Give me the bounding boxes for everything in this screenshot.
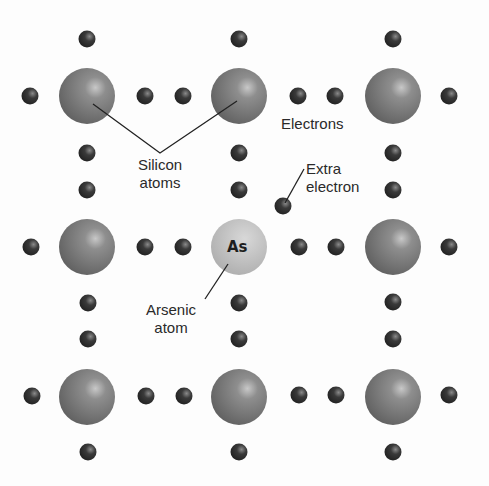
- electron: [231, 331, 248, 348]
- electron: [385, 182, 402, 199]
- extra-electron-label: Extra electron: [306, 160, 359, 196]
- electron: [231, 145, 248, 162]
- silicon-atom: [211, 68, 267, 124]
- electron: [231, 444, 248, 461]
- electron: [385, 331, 402, 348]
- electrons-label: Electrons: [281, 115, 344, 133]
- electron: [441, 88, 458, 105]
- label-line: Silicon: [128, 156, 192, 174]
- silicon-atom: [59, 68, 115, 124]
- electron: [24, 388, 41, 405]
- arsenic-atom-label: Arsenic atom: [137, 301, 205, 337]
- electron: [80, 444, 97, 461]
- electron: [385, 444, 402, 461]
- extra-electron-leader-line: [285, 169, 304, 203]
- electron: [80, 295, 97, 312]
- electron: [79, 31, 96, 48]
- silicon-atom: [365, 68, 421, 124]
- electron: [175, 88, 192, 105]
- silicon-atom: [365, 369, 421, 425]
- label-line: atom: [137, 319, 205, 337]
- extra-electron: [275, 198, 292, 215]
- electron: [23, 239, 40, 256]
- electron: [79, 145, 96, 162]
- silicon-atoms-label: Silicon atoms: [128, 156, 192, 192]
- silicon-atom: [59, 369, 115, 425]
- electron: [80, 331, 97, 348]
- electron: [385, 31, 402, 48]
- lattice-diagram: As Silicon atoms Electrons Extra electro…: [0, 0, 489, 486]
- electron: [137, 88, 154, 105]
- electron: [385, 294, 402, 311]
- electron: [22, 88, 39, 105]
- electron: [328, 239, 345, 256]
- electron: [231, 182, 248, 199]
- electron: [328, 387, 345, 404]
- electron: [291, 239, 308, 256]
- arsenic-leader-line: [205, 264, 228, 299]
- electron: [441, 239, 458, 256]
- leader-lines: [93, 101, 304, 299]
- electron: [441, 387, 458, 404]
- label-line: atoms: [128, 174, 192, 192]
- label-line: Extra: [306, 160, 359, 178]
- electron: [385, 145, 402, 162]
- electron: [291, 387, 308, 404]
- label-line: Arsenic: [137, 301, 205, 319]
- electron: [175, 239, 192, 256]
- arsenic-symbol: As: [227, 238, 248, 256]
- silicon-atom: [211, 369, 267, 425]
- silicon-atom: [365, 219, 421, 275]
- electron: [137, 239, 154, 256]
- electron: [138, 388, 155, 405]
- electron: [79, 182, 96, 199]
- electron: [231, 295, 248, 312]
- electron: [327, 88, 344, 105]
- electron: [231, 31, 248, 48]
- silicon-atom: [59, 219, 115, 275]
- electron: [176, 388, 193, 405]
- label-line: electron: [306, 178, 359, 196]
- electron: [290, 88, 307, 105]
